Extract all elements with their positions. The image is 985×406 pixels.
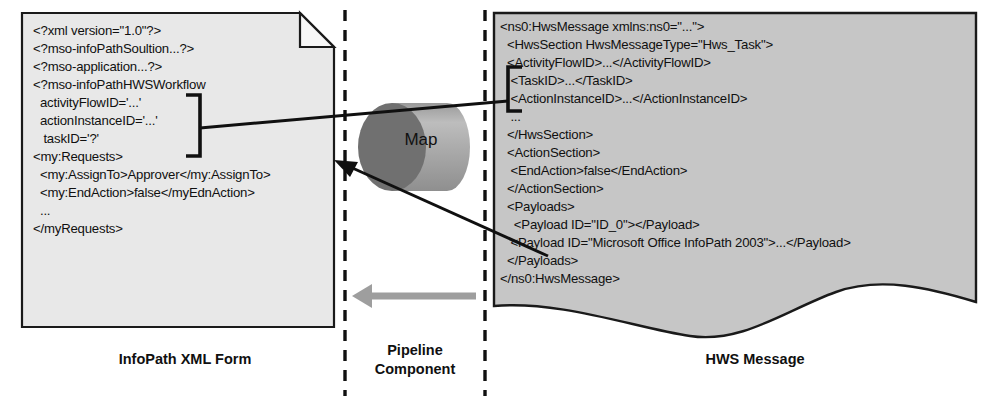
caption-pipeline-component: Pipeline Component	[352, 341, 478, 379]
map-cylinder-label: Map	[378, 130, 464, 150]
caption-infopath-xml-form: InfoPath XML Form	[60, 350, 310, 369]
return-flow-arrow	[352, 284, 476, 308]
document-fold-corner-icon	[300, 13, 334, 47]
diagram-canvas: <?xml version="1.0"?> <?mso-infoPathSoul…	[0, 0, 985, 406]
caption-hws-message: HWS Message	[650, 350, 860, 369]
hws-message-xml-code: <ns0:HwsMessage xmlns:ns0="..."> <HwsSec…	[500, 18, 851, 288]
infopath-xml-code: <?xml version="1.0"?> <?mso-infoPathSoul…	[33, 22, 270, 238]
